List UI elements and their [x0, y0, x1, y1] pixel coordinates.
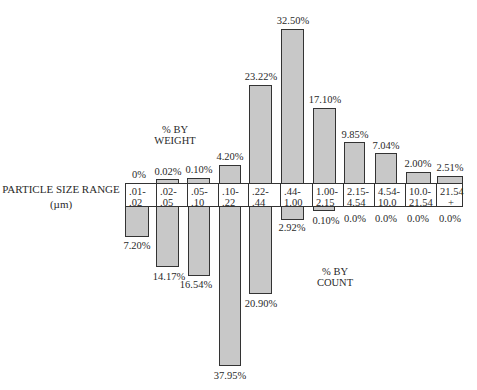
count-bar-5 — [281, 206, 304, 220]
weight-label-1: 0.02% — [154, 166, 181, 177]
count-series-title: % BY COUNT — [300, 266, 370, 288]
weight-label-2: 0.10% — [185, 164, 212, 175]
weight-label-0: 0% — [132, 169, 146, 180]
count-label-10: 0.0% — [439, 213, 461, 224]
count-label-5: 2.92% — [278, 222, 305, 233]
weight-bar-6 — [313, 108, 336, 184]
bin-label-bottom: .44 — [252, 197, 280, 208]
weight-series-title: % BY WEIGHT — [140, 124, 210, 146]
bin-label-bottom: .22 — [222, 197, 248, 208]
x-axis-title-line2: (µm) — [0, 198, 122, 210]
count-label-8: 0.0% — [375, 213, 397, 224]
weight-title-line1: % BY — [140, 124, 210, 135]
bin-label-bottom: 1.00 — [284, 197, 312, 208]
weight-label-5: 32.50% — [277, 15, 309, 26]
bin-label-bottom: 2.15 — [316, 197, 343, 208]
weight-bar-4 — [249, 85, 272, 184]
bin-label-bottom: .05 — [160, 197, 187, 208]
weight-bar-5 — [281, 29, 304, 184]
weight-label-8: 7.04% — [372, 140, 399, 151]
count-bar-3 — [219, 206, 241, 366]
count-label-9: 0.0% — [407, 213, 429, 224]
count-title-line1: % BY — [300, 266, 370, 277]
weight-bar-7 — [344, 142, 365, 184]
count-label-0: 7.20% — [123, 240, 150, 251]
weight-label-4: 23.22% — [245, 71, 277, 82]
particle-size-chart: PARTICLE SIZE RANGE (µm) % BY WEIGHT % B… — [0, 0, 477, 390]
bin-label-bottom: + — [440, 197, 462, 208]
weight-title-line2: WEIGHT — [140, 135, 210, 146]
count-label-7: 0.0% — [344, 213, 366, 224]
count-bar-0 — [125, 206, 149, 237]
count-bar-1 — [156, 206, 179, 267]
weight-bar-3 — [219, 165, 241, 184]
count-label-6: 0.10% — [312, 215, 339, 226]
weight-label-7: 9.85% — [341, 129, 368, 140]
weight-label-10: 2.51% — [436, 162, 463, 173]
x-axis-title: PARTICLE SIZE RANGE (µm) — [0, 183, 122, 210]
bin-label-bottom: 4.54 — [347, 197, 374, 208]
weight-label-9: 2.00% — [404, 158, 431, 169]
weight-label-3: 4.20% — [216, 151, 243, 162]
count-label-2: 16.54% — [180, 279, 212, 290]
count-bar-2 — [188, 206, 210, 276]
count-title-line2: COUNT — [300, 277, 370, 288]
count-label-4: 20.90% — [245, 298, 277, 309]
count-label-3: 37.95% — [214, 370, 246, 381]
weight-label-6: 17.10% — [309, 94, 341, 105]
bin-label-bottom: 10.0 — [378, 197, 405, 208]
count-bar-4 — [249, 206, 272, 294]
bin-label-bottom: 21.54 — [409, 197, 436, 208]
bin-label-bottom: .10 — [191, 197, 218, 208]
weight-bar-8 — [375, 153, 397, 184]
bin-label-bottom: .02 — [129, 197, 156, 208]
x-axis-title-line1: PARTICLE SIZE RANGE — [0, 183, 122, 195]
